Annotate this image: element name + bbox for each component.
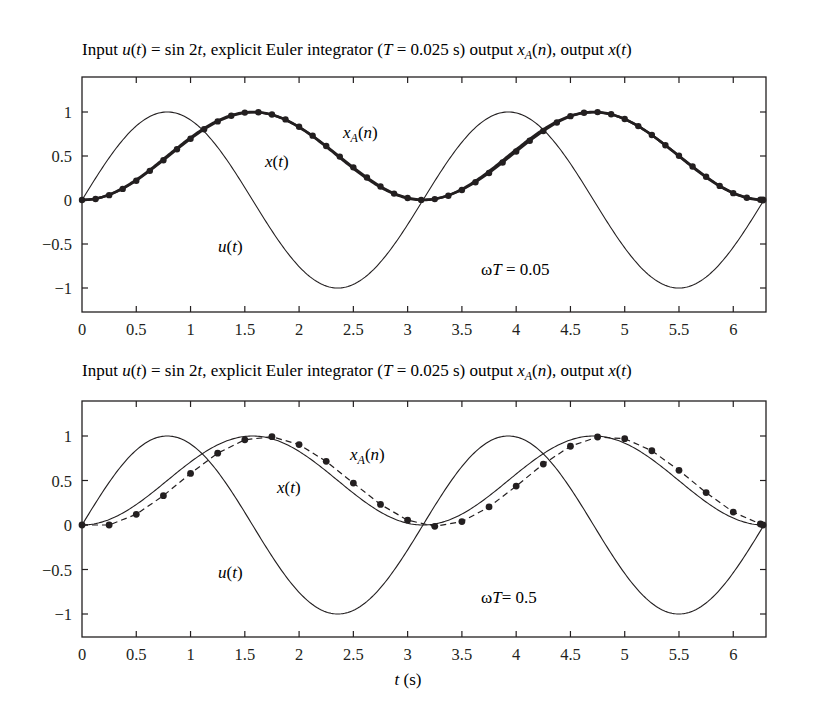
xA-n-marker: [676, 467, 683, 474]
x-tick-label: 0.5: [126, 320, 147, 339]
x-tick-label: 4: [512, 645, 520, 664]
xA-n-marker: [296, 123, 302, 129]
y-tick-label: −0.5: [42, 561, 72, 580]
xA-n-sequence-line: [82, 437, 764, 527]
figure: Input u(t) = sin 2t, explicit Euler inte…: [0, 0, 814, 710]
xA-n-marker: [309, 132, 315, 138]
top-plot: Input u(t) = sin 2t, explicit Euler inte…: [42, 40, 766, 339]
xA-n-marker: [404, 195, 410, 201]
xA-n-marker: [567, 443, 574, 450]
xA-n-marker: [649, 132, 655, 138]
xA-n-marker: [513, 148, 519, 154]
x-tick-label: 1.5: [235, 645, 256, 664]
bottom-plot: Input u(t) = sin 2t, explicit Euler inte…: [42, 361, 766, 689]
xA-n-marker: [730, 190, 736, 196]
bottom-plot-y-axis: 10.50−0.5−1: [42, 427, 766, 624]
xA-n-marker: [187, 136, 193, 142]
y-tick-label: 0.5: [51, 147, 72, 166]
xA-n-marker: [581, 110, 587, 116]
y-tick-label: 0.5: [51, 472, 72, 491]
y-tick-label: −1: [54, 605, 72, 624]
xA-n-marker: [241, 436, 248, 443]
x-axis-label: t (s): [395, 670, 422, 689]
x-tick-label: 3.5: [452, 320, 473, 339]
xA-n-marker: [648, 447, 655, 454]
xA-n-marker: [760, 197, 767, 204]
y-tick-label: 1: [64, 103, 72, 122]
xA-n-marker: [594, 434, 601, 441]
top-plot-frame: [82, 77, 766, 312]
xA-n-marker: [147, 168, 153, 174]
x-tick-label: 2: [295, 645, 303, 664]
x-tick-label: 2.5: [343, 320, 364, 339]
y-tick-label: 0: [64, 191, 72, 210]
x-tick-label: 4.5: [560, 645, 581, 664]
xA-n-marker: [486, 504, 493, 511]
xA-n-marker: [459, 187, 465, 193]
xA-n-marker: [160, 157, 166, 163]
bottom-plot-title: Input u(t) = sin 2t, explicit Euler inte…: [82, 361, 632, 383]
xA-n-marker: [689, 163, 695, 169]
xA-n-marker: [269, 433, 276, 440]
xA-n-marker: [377, 501, 384, 508]
xA-n-marker: [174, 146, 180, 152]
label-x-t: x(t): [276, 478, 301, 497]
xA-n-marker: [120, 186, 126, 192]
x-tick-label: 2.5: [343, 645, 364, 664]
x-tick-label: 5: [621, 320, 629, 339]
xA-n-marker: [350, 480, 357, 487]
label-u-t: u(t): [218, 563, 243, 582]
x-tick-label: 1: [186, 645, 194, 664]
xA-n-marker: [228, 113, 234, 119]
label-omega-T: ωT= 0.5: [481, 588, 537, 607]
xA-n-marker: [676, 153, 682, 159]
xA-n-marker: [608, 111, 614, 117]
xA-n-marker: [404, 517, 411, 524]
label-xA-n: xA(n): [349, 445, 385, 467]
x-tick-label: 1.5: [235, 320, 256, 339]
label-x-t: x(t): [264, 152, 289, 171]
bottom-plot-series: [79, 433, 767, 614]
label-xA-n: xA(n): [342, 123, 378, 145]
xA-n-marker: [377, 183, 383, 189]
xA-n-marker: [744, 195, 750, 201]
xA-n-marker: [554, 119, 560, 125]
top-plot-title: Input u(t) = sin 2t, explicit Euler inte…: [82, 40, 632, 62]
xA-n-marker: [730, 509, 737, 516]
label-omega-T: ωT = 0.05: [481, 260, 550, 279]
xA-n-marker: [540, 128, 546, 134]
x-tick-label: 3.5: [452, 645, 473, 664]
xA-n-marker: [703, 489, 710, 496]
xA-n-marker: [133, 178, 139, 184]
xA-n-marker: [445, 192, 451, 198]
y-tick-label: 1: [64, 427, 72, 446]
y-tick-label: −1: [54, 279, 72, 298]
xA-n-marker: [187, 470, 194, 477]
xA-n-marker: [323, 458, 330, 465]
xA-n-marker: [79, 522, 86, 529]
xA-n-marker: [527, 138, 533, 144]
xA-n-marker: [703, 174, 709, 180]
x-tick-label: 0.5: [126, 645, 147, 664]
x-tick-label: 0: [78, 645, 86, 664]
xA-n-marker: [760, 522, 767, 529]
xA-n-marker: [296, 441, 303, 448]
x-tick-label: 1: [186, 320, 194, 339]
x-tick-label: 5.5: [669, 320, 690, 339]
bottom-plot-x-axis: 00.511.522.533.544.555.56: [78, 401, 738, 664]
xA-n-marker: [106, 522, 113, 529]
xA-n-marker: [662, 142, 668, 148]
xA-n-marker: [540, 461, 547, 468]
xA-n-marker: [106, 192, 112, 198]
xA-n-marker: [214, 450, 221, 457]
xA-n-marker: [567, 113, 573, 119]
xA-n-marker: [269, 111, 275, 117]
xA-n-marker: [92, 196, 98, 202]
xA-n-marker: [716, 183, 722, 189]
x-t-curve: [82, 436, 764, 525]
xA-n-marker: [431, 523, 438, 530]
label-u-t: u(t): [218, 237, 243, 256]
top-plot-x-axis: 00.511.522.533.544.555.56: [78, 77, 738, 339]
x-tick-label: 4: [512, 320, 520, 339]
xA-n-marker: [350, 164, 356, 170]
